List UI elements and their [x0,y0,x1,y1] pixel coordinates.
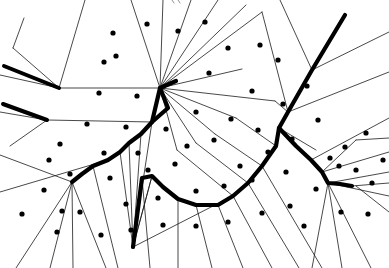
site-point [193,188,198,193]
site-point [57,141,62,146]
site-point [84,121,89,126]
site-point [144,21,149,26]
site-point [135,150,140,155]
site-point [249,88,254,93]
site-point [96,90,101,95]
site-point [184,143,189,148]
site-point [155,195,160,200]
site-point [172,161,177,166]
site-point [46,157,51,162]
site-point [315,117,320,122]
site-point [257,42,262,47]
voronoi-diagram-canvas [0,0,389,268]
site-point [41,187,46,192]
site-point [221,183,226,188]
site-point [255,127,260,132]
site-point [77,209,82,214]
site-point [98,232,103,237]
site-point [228,116,233,121]
site-point [160,222,165,227]
site-point [353,167,358,172]
site-point [175,28,180,33]
site-point [369,180,374,185]
site-point [163,126,168,131]
site-point [145,167,150,172]
site-point [206,70,211,75]
voronoi-figure [0,0,389,268]
site-point [128,227,133,232]
site-point [301,223,306,228]
site-point [237,163,242,168]
site-point [336,163,341,168]
site-point [304,83,309,88]
site-point [59,208,64,213]
site-point [259,210,264,215]
site-point [101,59,106,64]
site-point [225,219,230,224]
site-point [123,124,128,129]
site-point [110,30,115,35]
site-point [134,93,139,98]
site-point [193,223,198,228]
site-point [225,45,230,50]
site-point [289,136,294,141]
site-point [19,211,24,216]
site-point [54,229,59,234]
site-point [380,157,385,162]
site-point [101,150,106,155]
site-point [113,53,118,58]
site-point [123,201,128,206]
site-point [249,177,254,182]
site-point [275,57,280,62]
site-point [338,209,343,214]
site-point [342,144,347,149]
site-point [67,171,72,176]
site-point [287,203,292,208]
site-point [313,186,318,191]
site-point [202,19,207,24]
site-point [327,155,332,160]
site-point [107,175,112,180]
site-point [265,149,270,154]
site-point [193,109,198,114]
site-point [363,130,368,135]
site-point [280,101,285,106]
site-point [211,137,216,142]
site-point [365,211,370,216]
site-point [283,169,288,174]
